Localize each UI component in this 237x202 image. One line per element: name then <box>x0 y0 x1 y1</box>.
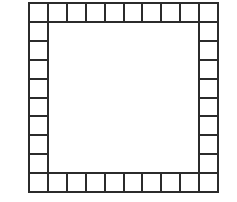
grid-cell <box>198 172 219 193</box>
grid-cell <box>198 40 219 61</box>
grid-cell <box>28 134 49 155</box>
grid-cell <box>28 172 49 193</box>
square-border-grid <box>28 2 219 193</box>
grid-cell <box>198 21 219 42</box>
grid-cell <box>198 115 219 136</box>
grid-cell <box>198 59 219 80</box>
grid-cell <box>66 2 87 23</box>
grid-cell <box>85 172 106 193</box>
grid-cell <box>123 172 143 193</box>
grid-cell <box>198 78 219 99</box>
grid-cell <box>28 153 49 174</box>
grid-cell <box>66 172 87 193</box>
grid-cell <box>28 97 49 117</box>
grid-cell <box>104 172 125 193</box>
grid-cell <box>141 2 162 23</box>
grid-cell <box>28 2 49 23</box>
diagram-canvas <box>0 0 237 202</box>
grid-cell <box>28 78 49 99</box>
grid-cell <box>47 172 68 193</box>
grid-cell <box>28 21 49 42</box>
grid-cell <box>28 40 49 61</box>
grid-cell <box>123 2 143 23</box>
grid-cell <box>28 115 49 136</box>
grid-cell <box>160 172 181 193</box>
grid-cell <box>85 2 106 23</box>
grid-cell <box>198 134 219 155</box>
grid-cell <box>160 2 181 23</box>
grid-cell <box>47 2 68 23</box>
grid-cell <box>28 59 49 80</box>
grid-cell <box>104 2 125 23</box>
grid-cell <box>198 2 219 23</box>
grid-cell <box>198 97 219 117</box>
grid-cell <box>179 172 200 193</box>
grid-cell <box>141 172 162 193</box>
grid-cell <box>198 153 219 174</box>
grid-cell <box>179 2 200 23</box>
